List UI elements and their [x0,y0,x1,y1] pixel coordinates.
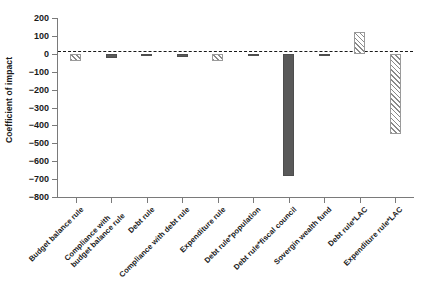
y-axis-tick [52,18,57,19]
x-axis-label: Debt rule*fiscal council [232,205,299,272]
bar [70,54,81,61]
bar [141,54,152,56]
bar [177,54,188,58]
y-axis-tick [52,161,57,162]
y-axis-tick [52,197,57,198]
y-axis-tick-label: 100 [34,31,49,41]
x-axis-tick [324,198,325,203]
y-axis-tick [52,54,57,55]
x-axis-label: Compliance with debt rule [118,205,192,279]
x-axis-tick [147,198,148,203]
x-axis-tick [111,198,112,203]
y-axis-title: Coefficient of impact [2,0,16,200]
x-axis-label: Debt rule [126,205,156,235]
bar [212,54,223,61]
y-axis-tick [52,108,57,109]
x-axis-tick [253,198,254,203]
x-axis-label-line: Expenditure rule*LAC [342,205,405,268]
bar [354,32,365,53]
x-axis-tick [289,198,290,203]
y-axis-tick-label: −100 [29,67,49,77]
y-axis-tick-label: −500 [29,138,49,148]
bar [319,54,330,56]
y-axis-tick-label: −700 [29,174,49,184]
y-axis-title-text: Coefficient of impact [4,57,14,143]
y-axis-tick [52,125,57,126]
x-axis-tick [395,198,396,203]
plot-area [58,18,413,197]
x-axis-label-line: Debt rule*fiscal council [232,205,299,272]
y-axis-tick-label: −200 [29,85,49,95]
y-axis-tick-label: −400 [29,120,49,130]
x-axis-label-line: Debt rule [126,205,156,235]
y-axis-tick-label: −800 [29,192,49,202]
bar [283,54,294,176]
bar [248,54,259,56]
y-axis-tick-label: −600 [29,156,49,166]
x-axis-tick [76,198,77,203]
bar-chart-figure: Coefficient of impact 2001000−100−200−30… [0,0,423,294]
y-axis-tick [52,36,57,37]
x-axis-label-line: Compliance with debt rule [118,205,192,279]
y-axis-tick [52,72,57,73]
x-axis-tick [182,198,183,203]
y-axis-tick [52,143,57,144]
x-axis-tick [360,198,361,203]
y-axis-tick-label: 200 [34,13,49,23]
bar [390,54,401,135]
y-axis-tick [52,179,57,180]
bar [106,54,117,58]
x-axis-label: Expenditure rule*LAC [342,205,405,268]
y-axis-tick [52,90,57,91]
y-axis-tick-label: −300 [29,103,49,113]
x-axis-tick [218,198,219,203]
y-axis-tick-label: 0 [44,49,49,59]
